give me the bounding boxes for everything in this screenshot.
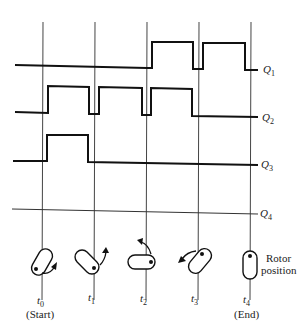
rotor-t0	[29, 246, 57, 277]
time-caption-start: (Start)	[26, 308, 54, 321]
time-label-t0: t0	[37, 294, 44, 309]
rotor-t4	[243, 251, 257, 279]
rotor-caption-line1: Rotor	[266, 252, 291, 264]
signal-label-q4: Q4	[260, 207, 272, 222]
rotor-t1	[72, 247, 109, 277]
rotor-caption-line2: position	[261, 264, 297, 276]
waveform-q1	[15, 42, 258, 70]
time-label-t3: t3	[191, 292, 198, 307]
rotor-t3	[178, 246, 214, 276]
time-caption-end: (End)	[234, 308, 259, 321]
signal-label-q2: Q2	[262, 111, 274, 126]
signal-label-q3: Q3	[261, 158, 273, 173]
signal-label-q1: Q1	[263, 63, 275, 78]
waveform-q2	[15, 86, 258, 117]
time-label-t4: t4	[243, 293, 250, 308]
waveform-q3	[13, 135, 258, 165]
rotation-arrow-icon	[100, 252, 106, 265]
timing-diagram: Q1 Q2 Q3 Q4 Rotor position t0 (Start)	[0, 0, 305, 328]
waveform-q4	[12, 209, 258, 214]
rotor-t2	[128, 238, 155, 269]
